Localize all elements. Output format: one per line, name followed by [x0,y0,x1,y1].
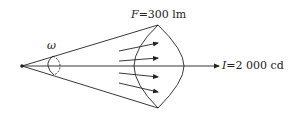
flux-value: =300 lm [139,8,187,21]
flux-arrow [119,83,158,92]
solid-angle-label: ω [47,40,56,52]
flux-arrow [119,73,158,77]
luminous-flux-diagram: F=300 lm ω I=2 000 cd [0,0,289,117]
flux-arrow [119,58,158,61]
flux-label: F=300 lm [131,9,186,21]
cap-front-arc [158,25,184,108]
intensity-label: I=2 000 cd [222,60,284,72]
solid-angle-arc [48,56,54,75]
flux-symbol: F [131,8,139,21]
intensity-value: =2 000 cd [226,59,283,72]
cap-back-arc [134,25,158,108]
solid-angle-dashed-arc [53,56,60,75]
